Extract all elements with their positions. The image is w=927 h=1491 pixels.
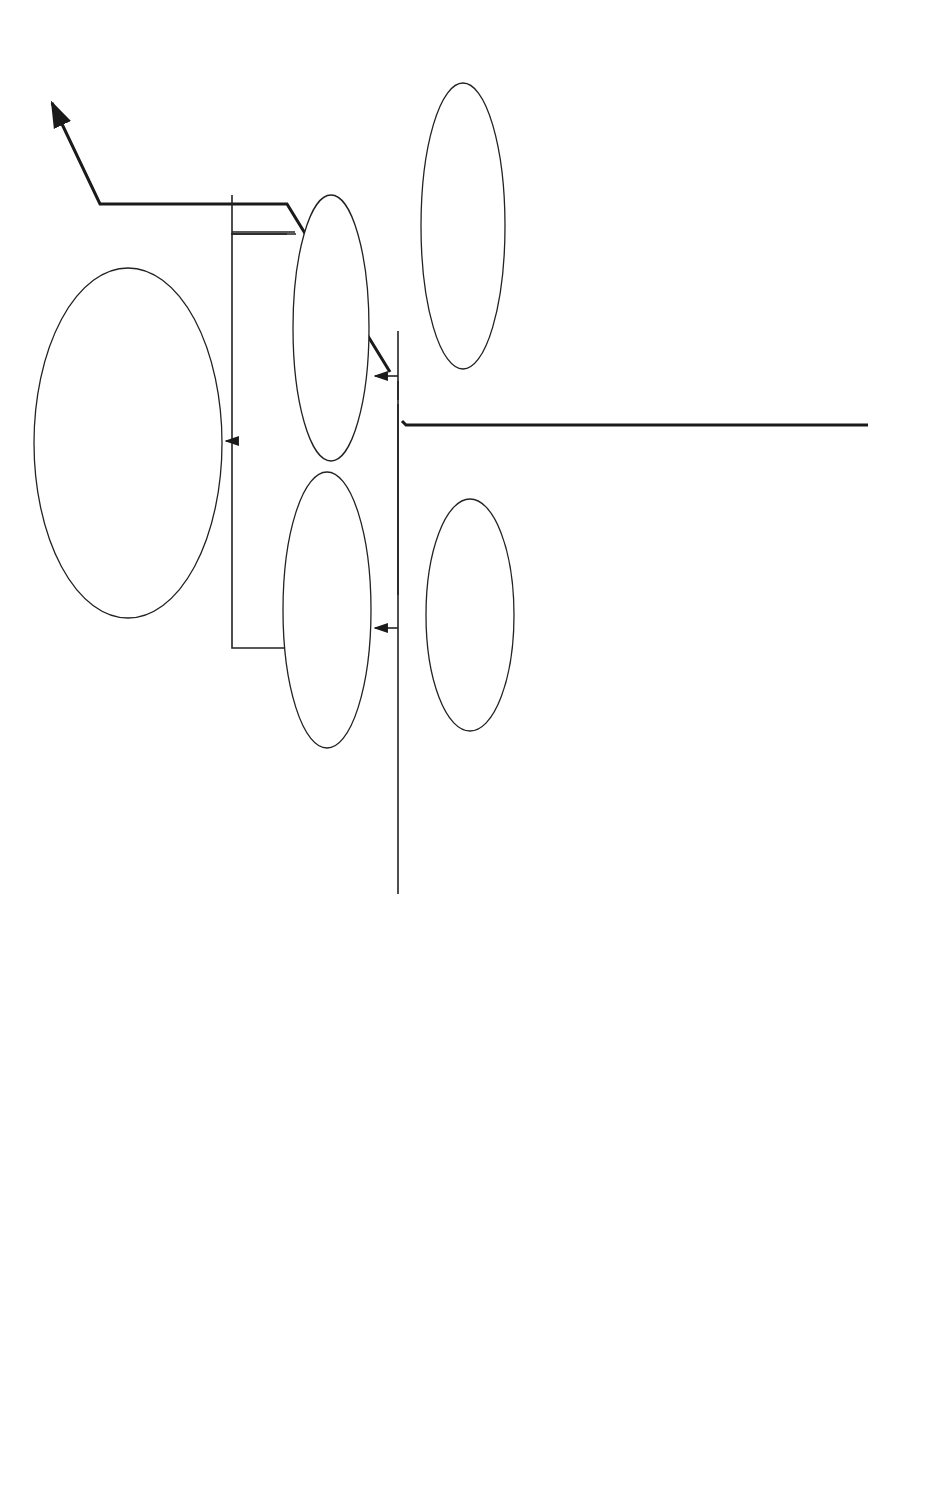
diagram-canvas [0,0,927,1491]
transformations-bracket [402,421,868,425]
claim-dependent-longer [0,83,505,1491]
prediction-node [0,268,222,1491]
claim-having-few-choices [0,472,371,1491]
